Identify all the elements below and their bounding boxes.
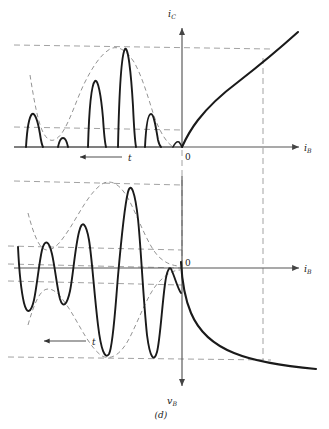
figure-svg: iC iB iB vB 0 0 t t (d) bbox=[0, 0, 329, 429]
time-label-lower: t bbox=[92, 337, 96, 347]
origin-label-upper: 0 bbox=[185, 152, 191, 162]
origin-label-lower: 0 bbox=[185, 258, 191, 268]
figure-container: iC iB iB vB 0 0 t t (d) bbox=[0, 0, 329, 429]
time-label-upper: t bbox=[128, 153, 132, 163]
figure-caption: (d) bbox=[155, 410, 168, 420]
